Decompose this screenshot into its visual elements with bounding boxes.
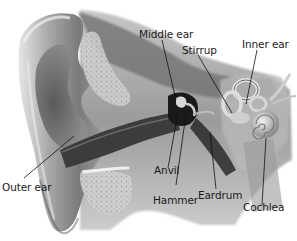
label-stirrup: Stirrup <box>182 44 217 56</box>
ear-anatomy-diagram: Middle ear Stirrup Inner ear Outer ear A… <box>0 0 297 241</box>
label-hammer: Hammer <box>153 194 198 206</box>
label-middle-ear: Middle ear <box>139 28 193 40</box>
label-anvil: Anvil <box>154 164 179 176</box>
label-eardrum: Eardrum <box>198 189 242 201</box>
label-outer-ear: Outer ear <box>2 181 51 193</box>
label-cochlea: Cochlea <box>243 201 284 213</box>
label-inner-ear: Inner ear <box>242 38 289 50</box>
